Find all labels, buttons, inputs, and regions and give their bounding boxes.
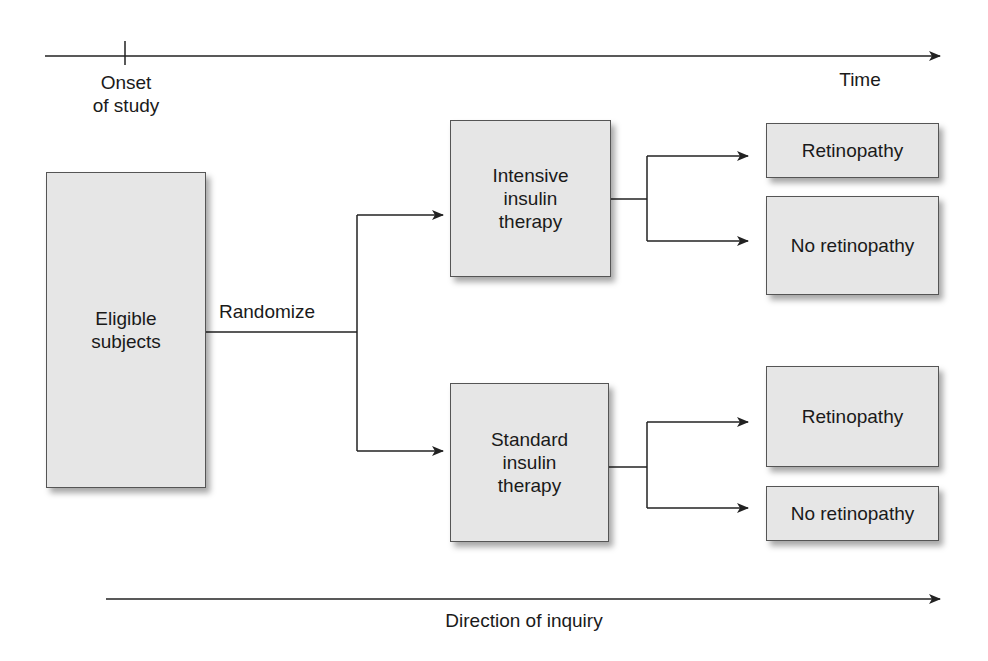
time-label: Time	[839, 68, 881, 91]
standard-retinopathy-box: Retinopathy	[766, 366, 939, 467]
onset-of-study-label: Onset of study	[93, 71, 160, 117]
direction-of-inquiry-label: Direction of inquiry	[445, 609, 602, 632]
standard-retinopathy-label: Retinopathy	[802, 405, 903, 428]
intensive-no-retinopathy-box: No retinopathy	[766, 196, 939, 295]
intensive-retinopathy-box: Retinopathy	[766, 123, 939, 178]
randomize-connector	[206, 215, 443, 451]
eligible-subjects-box: Eligible subjects	[46, 172, 206, 488]
diagram-canvas: Onset of study Time Eligible subjects Ra…	[0, 0, 988, 661]
intensive-therapy-label: Intensive insulin therapy	[492, 164, 568, 233]
standard-outcome-connector	[609, 422, 748, 508]
standard-no-retinopathy-box: No retinopathy	[766, 486, 939, 541]
randomize-label: Randomize	[219, 300, 315, 323]
time-axis	[45, 41, 940, 65]
eligible-subjects-label: Eligible subjects	[91, 307, 161, 353]
intensive-no-retinopathy-label: No retinopathy	[791, 234, 915, 257]
standard-therapy-label: Standard insulin therapy	[491, 428, 568, 497]
standard-no-retinopathy-label: No retinopathy	[791, 502, 915, 525]
standard-therapy-box: Standard insulin therapy	[450, 383, 609, 542]
intensive-retinopathy-label: Retinopathy	[802, 139, 903, 162]
intensive-therapy-box: Intensive insulin therapy	[450, 120, 611, 277]
intensive-outcome-connector	[611, 156, 748, 241]
